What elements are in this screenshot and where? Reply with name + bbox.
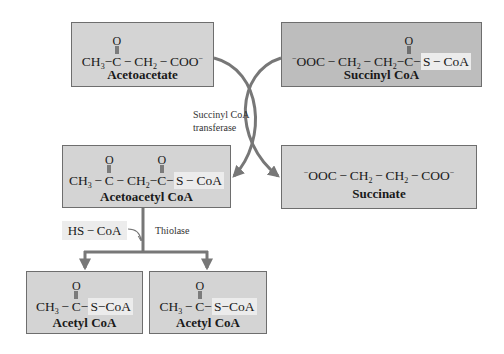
succinyl-coa-box: −OOC − CH2 − CH2−OC−S − CoA Succinyl CoA (281, 22, 482, 87)
acetyl-coa-label-2: Acetyl CoA (150, 315, 266, 331)
acetyl-coa-box-2: CH3 − OC−S−CoA Acetyl CoA (149, 271, 267, 334)
acetoacetate-label: Acetoacetate (72, 67, 213, 83)
acetyl-coa-box-1: CH3 − OC−S−CoA Acetyl CoA (26, 271, 143, 334)
succinate-box: −OOC − CH2 − CH2 − COO− Succinate (281, 145, 477, 209)
acetoacetyl-coa-box: CH3 − OC − CH2−OC−S − CoA Acetoacetyl Co… (62, 145, 231, 208)
coa-highlight: S − CoA (174, 172, 224, 189)
enzyme-label-transferase: Succinyl CoA transferase (193, 108, 249, 134)
succinate-label: Succinate (282, 186, 476, 202)
hs-coa-label: HS − CoA (62, 221, 127, 240)
coa-highlight: S−CoA (88, 298, 133, 315)
succinyl-coa-label: Succinyl CoA (282, 67, 481, 83)
transferase-arrow-succinyl (245, 58, 281, 176)
acetyl-coa-label-1: Acetyl CoA (27, 315, 142, 331)
acetoacetate-box: CH3−OC − CH2 − COO− Acetoacetate (71, 22, 214, 87)
enzyme-label-thiolase: Thiolase (155, 224, 189, 237)
coa-highlight: S−CoA (212, 298, 257, 315)
hs-coa-arrow (128, 229, 141, 240)
succinate-formula: −OOC − CH2 − CH2 − COO− (282, 166, 476, 188)
acetoacetyl-coa-label: Acetoacetyl CoA (63, 189, 230, 205)
